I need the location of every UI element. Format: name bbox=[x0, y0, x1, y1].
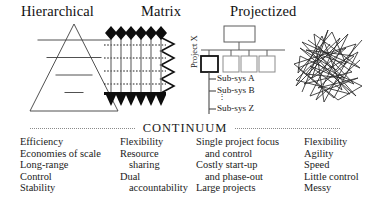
attribute-item: Flexibility bbox=[304, 136, 368, 148]
scribble-path-4 bbox=[300, 40, 362, 96]
attribute-item: Messy bbox=[304, 182, 368, 194]
org-chart-diagram: Project X Sub-sys A Sub-sys B ⋮ Sub-sys … bbox=[193, 24, 285, 114]
continuum-divider: CONTINUUM bbox=[0, 120, 370, 136]
attribute-column-hierarchical: Efficiency Economies of scale Long-range… bbox=[20, 136, 126, 194]
attribute-item-continuation: sharing bbox=[120, 159, 198, 171]
org-box-project-highlight bbox=[201, 56, 218, 72]
attribute-item: Efficiency bbox=[20, 136, 126, 148]
attribute-item: Long-range bbox=[20, 159, 126, 171]
attribute-item-continuation: accountability bbox=[120, 182, 198, 194]
matrix-diamond-heads bbox=[105, 26, 167, 40]
continuum-dotted-rule-left bbox=[30, 128, 135, 129]
org-box-2 bbox=[223, 56, 239, 72]
column-title-matrix: Matrix bbox=[141, 3, 181, 20]
attribute-item: Single project focus bbox=[196, 136, 308, 148]
matrix-bottom-bar bbox=[104, 92, 166, 95]
attribute-item-continuation: and control bbox=[196, 148, 308, 160]
column-title-projectized: Projectized bbox=[230, 3, 296, 20]
attribute-item-continuation: and phase-out bbox=[196, 171, 308, 183]
matrix-svg bbox=[104, 24, 176, 110]
org-subsystem-label-z: Sub-sys Z bbox=[217, 103, 254, 113]
figure-canvas: Hierarchical Matrix Projectized bbox=[0, 0, 370, 202]
org-subsystem-label-a: Sub-sys A bbox=[217, 73, 255, 83]
attribute-item: Control bbox=[20, 171, 126, 183]
org-box-3 bbox=[241, 56, 257, 72]
attribute-columns: Efficiency Economies of scale Long-range… bbox=[0, 136, 370, 200]
attribute-item: Little control bbox=[304, 171, 368, 183]
attribute-item: Large projects bbox=[196, 182, 308, 194]
org-chart-svg bbox=[193, 24, 285, 114]
attribute-item: Agility bbox=[304, 148, 368, 160]
attribute-item: Speed bbox=[304, 159, 368, 171]
network-scribble-svg bbox=[288, 26, 364, 108]
attribute-item: Resource bbox=[120, 148, 198, 160]
attribute-item: Stability bbox=[20, 182, 126, 194]
org-subsystem-ellipsis-icon: ⋮ bbox=[218, 93, 226, 101]
attribute-item: Flexibility bbox=[120, 136, 198, 148]
matrix-triangle-heads bbox=[106, 95, 166, 106]
attribute-column-network: Flexibility Agility Speed Little control… bbox=[304, 136, 368, 194]
network-scribble-diagram bbox=[288, 26, 364, 108]
continuum-label: CONTINUUM bbox=[141, 121, 230, 136]
attribute-item: Economies of scale bbox=[20, 148, 126, 160]
org-axis-label-project-x: Project X bbox=[189, 24, 203, 68]
attribute-item: Dual bbox=[120, 171, 198, 183]
attribute-column-projectized: Single project focus and control Costly … bbox=[196, 136, 308, 194]
attribute-column-matrix: Flexibility Resource sharing Dual accoun… bbox=[120, 136, 198, 194]
matrix-grid-diagram bbox=[104, 24, 176, 110]
attribute-item: Costly start-up bbox=[196, 159, 308, 171]
column-title-hierarchical: Hierarchical bbox=[21, 3, 94, 20]
org-box-4 bbox=[259, 56, 275, 72]
org-top-box bbox=[224, 26, 255, 42]
continuum-dotted-rule-right bbox=[235, 128, 340, 129]
